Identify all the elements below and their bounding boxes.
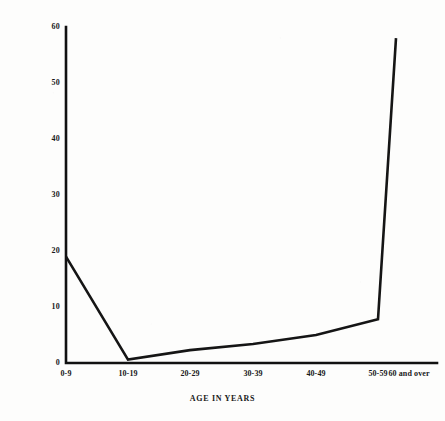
x-tick-label-0-9: 0-9 xyxy=(61,369,72,378)
y-tick-50: 50 xyxy=(36,78,60,87)
data-series-line xyxy=(66,38,396,359)
y-tick-20: 20 xyxy=(36,246,60,255)
x-tick-label-20-29: 20-29 xyxy=(180,369,199,378)
y-tick-label: 50 xyxy=(38,78,60,87)
y-tick-60: 60 xyxy=(36,22,60,31)
y-tick-10: 10 xyxy=(36,302,60,311)
chart-axes xyxy=(66,27,437,363)
line-chart-canvas xyxy=(0,0,445,421)
x-tick-label-60-and-over: 60 and over xyxy=(388,369,429,378)
y-tick-label: 10 xyxy=(38,302,60,311)
x-tick-label-50-59: 50-59 xyxy=(368,369,387,378)
y-tick-label: 40 xyxy=(38,134,60,143)
x-axis-title: AGE IN YEARS xyxy=(0,394,445,403)
x-tick-label-10-19: 10-19 xyxy=(118,369,137,378)
x-tick-label-40-49: 40-49 xyxy=(306,369,325,378)
y-tick-label: 30 xyxy=(38,190,60,199)
y-tick-30: 30 xyxy=(36,190,60,199)
x-tick-label-30-39: 30-39 xyxy=(243,369,262,378)
y-tick-label: 20 xyxy=(38,246,60,255)
y-tick-label: 60 xyxy=(38,22,60,31)
chart-figure: 0 10 20 30 40 50 60 0-9 10-19 20-29 30-3… xyxy=(0,0,445,421)
y-tick-label: 0 xyxy=(38,358,60,367)
y-tick-40: 40 xyxy=(36,134,60,143)
y-tick-0: 0 xyxy=(36,358,60,367)
